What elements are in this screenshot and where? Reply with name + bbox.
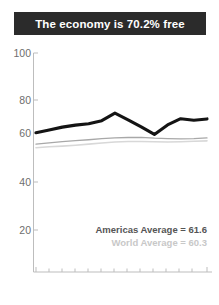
y-tick-label: 60 [5,128,31,139]
line-chart-plot [0,40,219,305]
chart-title-banner: The economy is 70.2% free [14,12,206,35]
page-title: The economy is 70.2% free [35,18,185,30]
y-tick-marks [34,53,39,230]
y-tick-label: 80 [5,95,31,106]
y-tick-label: 40 [5,177,31,188]
y-tick-label: 20 [5,225,31,236]
legend-world-average: World Average = 60.3 [95,236,207,249]
y-tick-label: 100 [5,48,31,59]
legend-americas-average: Americas Average = 61.6 [95,223,207,236]
chart-area: 100 80 60 40 20 1995 2008 Americas Avera… [0,40,219,305]
chart-legend: Americas Average = 61.6 World Average = … [95,223,207,249]
series-line-americas-average [36,137,207,144]
series-line-economy-score [36,113,207,134]
x-tick-marks [36,267,207,272]
